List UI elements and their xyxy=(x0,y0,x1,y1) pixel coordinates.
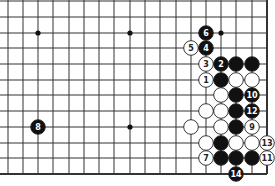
stone-circle xyxy=(229,151,244,166)
move-number-label: 13 xyxy=(261,139,272,148)
stone-circle xyxy=(229,88,244,103)
star-point xyxy=(127,30,132,35)
stone-circle xyxy=(184,120,199,135)
stone-circle xyxy=(214,104,229,119)
move-number-label: 14 xyxy=(230,170,242,179)
stone-circle xyxy=(214,151,229,166)
move-number-label: 9 xyxy=(249,123,255,132)
stone-circle xyxy=(199,104,214,119)
black-stone xyxy=(229,88,244,103)
white-stone xyxy=(214,88,229,103)
black-stone xyxy=(229,57,244,72)
black-stone xyxy=(229,151,244,166)
stone-circle xyxy=(199,136,214,151)
black-stone: 12 xyxy=(245,104,260,119)
star-point xyxy=(35,30,40,35)
white-stone xyxy=(184,120,199,135)
stone-circle xyxy=(245,136,260,151)
move-number-label: 1 xyxy=(203,76,209,85)
black-stone xyxy=(214,136,229,151)
white-stone: 13 xyxy=(260,136,275,151)
white-stone xyxy=(229,136,244,151)
move-number-label: 11 xyxy=(261,154,273,163)
black-stone: 10 xyxy=(245,88,260,103)
black-stone xyxy=(245,57,260,72)
white-stone: 9 xyxy=(245,120,260,135)
stone-circle xyxy=(245,73,260,88)
black-stone xyxy=(229,104,244,119)
stone-circle xyxy=(214,120,229,135)
move-number-label: 7 xyxy=(203,154,209,163)
white-stone: 7 xyxy=(199,151,214,166)
move-number-label: 5 xyxy=(188,44,194,53)
stone-circle xyxy=(245,151,260,166)
white-stone xyxy=(245,73,260,88)
white-stone: 5 xyxy=(184,41,199,56)
move-number-label: 4 xyxy=(203,44,209,53)
black-stone: 4 xyxy=(199,41,214,56)
stone-circle xyxy=(245,57,260,72)
white-stone xyxy=(199,104,214,119)
stone-circle xyxy=(214,73,229,88)
star-point xyxy=(127,124,132,129)
white-stone xyxy=(214,104,229,119)
stone-circle xyxy=(229,120,244,135)
white-stone xyxy=(229,73,244,88)
go-board-diagram: 6543211012891371114 xyxy=(0,0,275,186)
stone-circle xyxy=(214,136,229,151)
move-number-label: 2 xyxy=(218,60,224,69)
black-stone: 2 xyxy=(214,57,229,72)
star-point xyxy=(218,30,223,35)
white-stone: 11 xyxy=(260,151,275,166)
stone-circle xyxy=(214,88,229,103)
white-stone xyxy=(199,136,214,151)
stone-circle xyxy=(229,104,244,119)
white-stone: 3 xyxy=(199,57,214,72)
white-stone xyxy=(245,136,260,151)
black-stone: 14 xyxy=(229,167,244,182)
move-number-label: 6 xyxy=(203,29,209,38)
stone-circle xyxy=(229,57,244,72)
black-stone xyxy=(214,73,229,88)
move-number-label: 10 xyxy=(246,91,258,100)
black-stone xyxy=(229,120,244,135)
white-stone xyxy=(214,120,229,135)
move-number-label: 3 xyxy=(203,60,209,69)
move-number-label: 8 xyxy=(35,123,41,132)
black-stone xyxy=(245,151,260,166)
white-stone: 1 xyxy=(199,73,214,88)
black-stone xyxy=(214,151,229,166)
stone-circle xyxy=(229,136,244,151)
black-stone: 8 xyxy=(31,120,46,135)
move-number-label: 12 xyxy=(246,107,257,116)
stone-circle xyxy=(229,73,244,88)
black-stone: 6 xyxy=(199,26,214,41)
